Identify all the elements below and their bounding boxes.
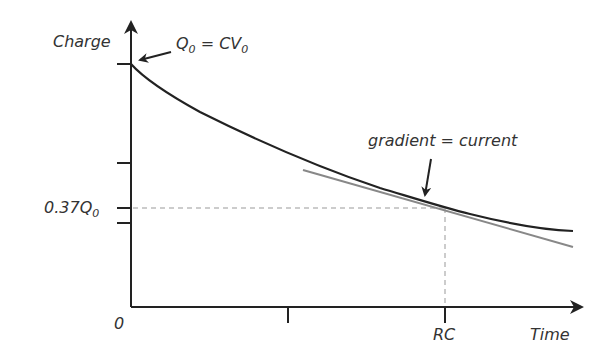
y-axis-label: Charge — [53, 32, 111, 51]
q0-arrow — [140, 52, 171, 60]
discharge-graph: Charge Time 0 RC Q0 = CV0 0.37Q0 gradien… — [0, 0, 609, 364]
gradient-arrow — [425, 159, 431, 195]
q037-label: 0.37Q0 — [44, 198, 99, 220]
origin-label: 0 — [114, 314, 124, 333]
gradient-label: gradient = current — [368, 131, 518, 150]
rc-label: RC — [433, 325, 456, 344]
x-axis-label: Time — [530, 325, 570, 344]
q0-label: Q0 = CV0 — [176, 34, 248, 56]
